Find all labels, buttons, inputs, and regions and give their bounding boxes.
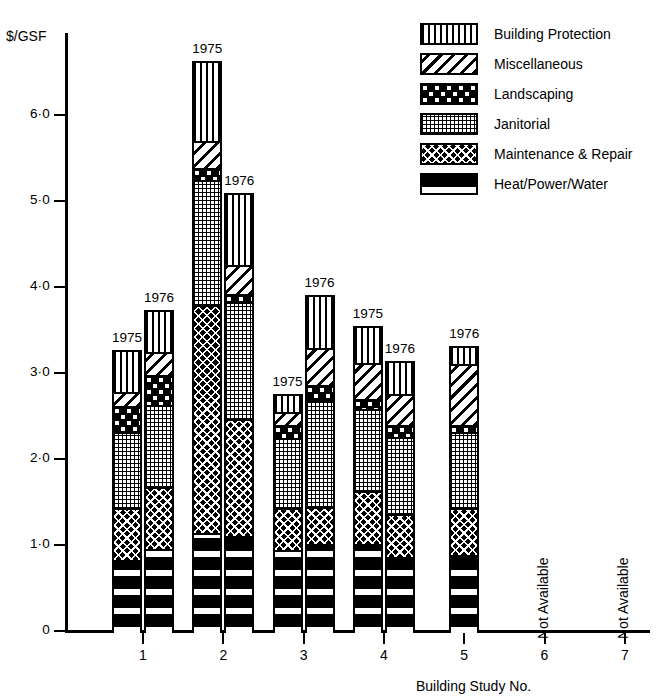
- legend-label: Miscellaneous: [494, 56, 583, 72]
- bar-segment-janitorial: [146, 407, 172, 490]
- legend-swatch-building: [420, 23, 478, 45]
- bar-segment-misc: [387, 396, 413, 426]
- stacked-bar[interactable]: [449, 346, 479, 633]
- bar-segment-heat: [451, 557, 477, 633]
- bar-year-label: 1976: [135, 290, 183, 305]
- y-tick-label: 5·0: [8, 192, 50, 207]
- legend-swatch-landscaping: [420, 83, 478, 105]
- bar-segment-maintenance: [307, 509, 333, 546]
- bar-segment-heat: [194, 535, 220, 633]
- bar-segment-misc: [114, 394, 140, 408]
- x-tick-label: 7: [613, 647, 637, 663]
- bar-segment-landscaping: [355, 401, 381, 411]
- bar-segment-janitorial: [451, 434, 477, 510]
- bar-segment-building: [451, 348, 477, 365]
- x-tick-label: 1: [131, 647, 155, 663]
- bar-segment-landscaping: [307, 387, 333, 402]
- bar-segment-building: [275, 396, 301, 414]
- y-tick-label: 6·0: [8, 106, 50, 121]
- legend-item[interactable]: Heat/Power/Water: [420, 170, 633, 198]
- stacked-bar[interactable]: [353, 326, 383, 633]
- bar-segment-maintenance: [226, 421, 252, 538]
- x-tick-mark: [463, 633, 465, 644]
- bar-segment-building: [114, 352, 140, 394]
- bar-segment-landscaping: [146, 377, 172, 407]
- bar-segment-maintenance: [387, 516, 413, 559]
- stacked-bar[interactable]: [273, 394, 303, 633]
- legend-label: Landscaping: [494, 86, 573, 102]
- legend-swatch-heat: [420, 173, 478, 195]
- bar-segment-landscaping: [226, 296, 252, 305]
- legend-item[interactable]: Landscaping: [420, 80, 633, 108]
- stacked-bar[interactable]: [305, 295, 335, 633]
- x-axis-title-text: Building Study No.: [416, 678, 531, 694]
- x-tick-label: 5: [452, 647, 476, 663]
- bar-segment-landscaping: [275, 427, 301, 440]
- legend-item[interactable]: Building Protection: [420, 20, 633, 48]
- not-available-label: Not Available: [535, 558, 551, 639]
- stacked-bar[interactable]: [385, 361, 415, 633]
- y-tick-mark: [54, 200, 65, 202]
- bar-segment-maintenance: [194, 307, 220, 535]
- x-tick-label: 6: [533, 647, 557, 663]
- bar-segment-building: [194, 63, 220, 143]
- legend-label: Building Protection: [494, 26, 611, 42]
- bar-segment-maintenance: [114, 510, 140, 562]
- legend-swatch-janitorial: [420, 113, 478, 135]
- chart-legend: Building ProtectionMiscellaneousLandscap…: [420, 20, 633, 200]
- stacked-bar[interactable]: [144, 310, 174, 633]
- bar-segment-maintenance: [275, 510, 301, 552]
- bar-segment-building: [387, 363, 413, 397]
- bar-segment-building: [146, 312, 172, 354]
- x-tick-mark: [303, 633, 305, 644]
- bar-segment-building: [307, 297, 333, 350]
- y-tick-label: 4·0: [8, 278, 50, 293]
- bar-segment-misc: [226, 267, 252, 295]
- bar-segment-heat: [275, 552, 301, 633]
- bar-year-label: 1976: [376, 341, 424, 356]
- bar-year-label: 1976: [296, 275, 344, 290]
- legend-item[interactable]: Janitorial: [420, 110, 633, 138]
- legend-label: Maintenance & Repair: [494, 146, 633, 162]
- x-tick-label: 2: [211, 647, 235, 663]
- bar-segment-janitorial: [114, 434, 140, 510]
- bar-segment-maintenance: [146, 489, 172, 551]
- y-tick-mark: [54, 372, 65, 374]
- y-tick-label: 2·0: [8, 450, 50, 465]
- y-axis-title: $/GSF: [6, 28, 46, 44]
- legend-swatch-maintenance: [420, 143, 478, 165]
- x-tick-mark: [222, 633, 224, 644]
- y-tick-mark: [54, 114, 65, 116]
- bar-year-label: 1976: [215, 173, 263, 188]
- y-tick-label: 3·0: [8, 364, 50, 379]
- bar-year-label: 1975: [183, 41, 231, 56]
- stacked-bar[interactable]: [224, 193, 254, 633]
- bar-year-label: 1976: [440, 326, 488, 341]
- y-tick-label: 1·0: [8, 536, 50, 551]
- bar-segment-heat: [387, 559, 413, 633]
- bar-segment-maintenance: [355, 493, 381, 546]
- bar-segment-heat: [226, 538, 252, 633]
- not-available-label: Not Available: [615, 558, 631, 639]
- bar-segment-misc: [307, 350, 333, 387]
- bar-segment-janitorial: [387, 439, 413, 516]
- bar-segment-misc: [146, 354, 172, 376]
- stacked-bar[interactable]: [112, 350, 142, 633]
- stacked-bar[interactable]: [192, 61, 222, 633]
- bar-segment-misc: [355, 365, 381, 401]
- legend-swatch-misc: [420, 53, 478, 75]
- bar-segment-misc: [275, 414, 301, 428]
- y-tick-mark: [54, 458, 65, 460]
- bar-segment-landscaping: [387, 427, 413, 439]
- bar-segment-janitorial: [355, 411, 381, 493]
- legend-label: Heat/Power/Water: [494, 176, 608, 192]
- legend-item[interactable]: Maintenance & Repair: [420, 140, 633, 168]
- bar-segment-janitorial: [226, 304, 252, 420]
- y-tick-mark: [54, 544, 65, 546]
- legend-item[interactable]: Miscellaneous: [420, 50, 633, 78]
- y-tick-mark: [54, 286, 65, 288]
- x-tick-label: 4: [372, 647, 396, 663]
- bar-segment-landscaping: [114, 408, 140, 435]
- bar-segment-heat: [114, 562, 140, 633]
- y-tick-mark: [54, 630, 65, 632]
